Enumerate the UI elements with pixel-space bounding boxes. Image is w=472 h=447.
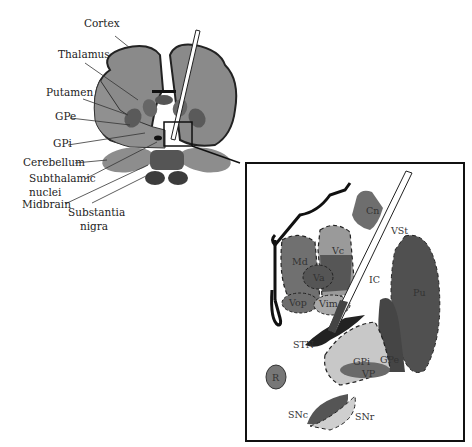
label-putamen: Putamen (46, 86, 93, 98)
label-cn: Cn (366, 205, 379, 216)
label-gpi: GPi (53, 137, 72, 149)
label-subthalamic: Subthalamic (29, 172, 96, 184)
label-md: Md (292, 256, 308, 267)
brain-diagram: Cortex Thalamus Putamen GPe GPi Cerebell… (0, 0, 472, 447)
label-snc: SNc (288, 409, 308, 420)
label-vop: Vop (288, 297, 307, 308)
label-ic: IC (369, 274, 380, 285)
label-snr: SNr (355, 411, 375, 422)
label-cortex: Cortex (84, 17, 120, 29)
label-vp: VP (361, 368, 376, 379)
label-r: R (272, 372, 280, 383)
label-vc: Vc (331, 245, 344, 256)
label-cerebellum: Cerebellum (23, 156, 85, 168)
label-substantia: Substantia (68, 206, 125, 218)
label-midbrain: Midbrain (22, 198, 71, 210)
label-pu: Pu (413, 287, 426, 298)
label-gpi-inset: GPi (353, 356, 370, 367)
label-va: Va (312, 272, 325, 283)
label-vim: Vim (318, 298, 338, 309)
label-gpe: GPe (55, 110, 76, 122)
brain-coronal-section (94, 30, 240, 185)
label-stn: STN (293, 339, 314, 350)
label-nuclei: nuclei (29, 186, 62, 198)
label-nigra: nigra (80, 220, 108, 232)
label-vst: VSt (390, 225, 408, 236)
label-gpe-inset: GPe (380, 354, 400, 365)
label-thalamus: Thalamus (58, 48, 110, 60)
